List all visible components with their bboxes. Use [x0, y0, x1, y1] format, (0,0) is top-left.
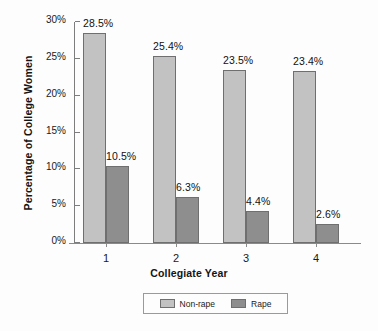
bar-value-label: 2.6% [316, 208, 340, 220]
x-axis-line [69, 243, 361, 244]
y-axis-tick-mark [75, 21, 80, 22]
bar-value-label: 23.4% [293, 55, 323, 67]
legend-swatch-non-rape [160, 299, 175, 308]
legend-item-label: Rape [251, 299, 271, 309]
bar-non-rape-year-1 [83, 33, 106, 243]
y-axis-tick-mark [75, 58, 80, 59]
x-axis-tick-mark [106, 243, 107, 247]
bar-value-label: 23.5% [223, 54, 253, 66]
y-axis-tick-mark [75, 205, 80, 206]
x-axis-tick-mark [246, 243, 247, 247]
x-axis-category-label: 3 [226, 252, 266, 264]
y-axis-tick-mark [75, 95, 80, 96]
bar-value-label: 6.3% [176, 181, 200, 193]
bar-rape-year-4 [316, 224, 339, 243]
bar-rape-year-2 [176, 197, 199, 243]
y-axis-tick-label: 10% [46, 161, 66, 172]
x-axis-tick-mark [316, 243, 317, 247]
y-axis-tick-label: 5% [52, 198, 66, 209]
bar-non-rape-year-3 [223, 70, 246, 243]
bar-rape-year-3 [246, 211, 269, 243]
y-axis-tick-label: 20% [46, 88, 66, 99]
y-axis-tick-label: 25% [46, 51, 66, 62]
y-axis-tick-mark [75, 168, 80, 169]
x-axis-category-label: 2 [156, 252, 196, 264]
y-axis-tick-mark [75, 242, 80, 243]
plot-area: 0%5%10%15%20%25%30% 28.5%10.5%25.4%6.3%2… [75, 22, 358, 243]
bar-value-label: 25.4% [153, 40, 183, 52]
y-axis-tick-label: 30% [46, 14, 66, 25]
bar-value-label: 4.4% [246, 195, 270, 207]
y-axis-tick-label: 0% [52, 235, 66, 246]
bar-non-rape-year-4 [293, 71, 316, 243]
x-axis-tick-mark [176, 243, 177, 247]
y-axis-line [74, 22, 75, 243]
chart-figure: Percentage of College Women 0%5%10%15%20… [0, 0, 378, 331]
legend-item-label: Non-rape [180, 299, 215, 309]
chart-legend: Non-rapeRape [143, 293, 288, 314]
y-axis-tick-mark [75, 132, 80, 133]
x-axis-category-label: 1 [86, 252, 126, 264]
bar-value-label: 28.5% [83, 17, 113, 29]
legend-item: Non-rape [160, 299, 215, 309]
y-axis-tick-label: 15% [46, 125, 66, 136]
x-axis-title: Collegiate Year [0, 267, 378, 279]
legend-item: Rape [231, 299, 271, 309]
bar-rape-year-1 [106, 166, 129, 243]
x-axis-category-label: 4 [296, 252, 336, 264]
y-axis-title: Percentage of College Women [22, 28, 34, 238]
bar-non-rape-year-2 [153, 56, 176, 243]
legend-swatch-rape [231, 299, 246, 308]
bar-value-label: 10.5% [106, 150, 136, 162]
